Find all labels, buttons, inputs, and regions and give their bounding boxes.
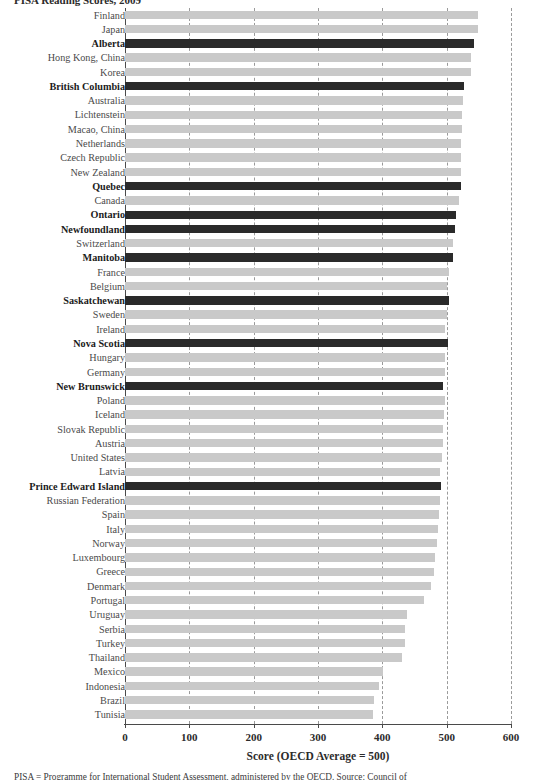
bar-row[interactable]: Luxembourg <box>0 551 535 565</box>
bar-rect[interactable] <box>125 639 405 647</box>
bar-rect[interactable] <box>125 168 461 176</box>
bar-row[interactable]: Russian Federation <box>0 494 535 508</box>
bar-rect[interactable] <box>125 182 461 190</box>
bar-row[interactable]: Finland <box>0 8 535 22</box>
bar-row[interactable]: Norway <box>0 536 535 550</box>
bar-rect[interactable] <box>125 11 478 19</box>
bar-row[interactable]: Germany <box>0 365 535 379</box>
bar-row[interactable]: Italy <box>0 522 535 536</box>
bar-rect[interactable] <box>125 625 405 633</box>
bar-row[interactable]: British Columbia <box>0 79 535 93</box>
bar-row[interactable]: New Zealand <box>0 165 535 179</box>
bar-rect[interactable] <box>125 225 455 233</box>
bar-row[interactable]: Canada <box>0 194 535 208</box>
bar-rect[interactable] <box>125 368 445 376</box>
bar-rect[interactable] <box>125 682 379 690</box>
bar-row[interactable]: Portugal <box>0 593 535 607</box>
bar-row[interactable]: Denmark <box>0 579 535 593</box>
bar-row[interactable]: United States <box>0 451 535 465</box>
bar-row[interactable]: Newfoundland <box>0 222 535 236</box>
bar-rect[interactable] <box>125 410 444 418</box>
bar-rect[interactable] <box>125 453 442 461</box>
bar-rect[interactable] <box>125 425 443 433</box>
bar-row[interactable]: Iceland <box>0 408 535 422</box>
bar-rect[interactable] <box>125 696 374 704</box>
bar-row[interactable]: Austria <box>0 436 535 450</box>
bar-rect[interactable] <box>125 211 456 219</box>
bar-row[interactable]: Japan <box>0 22 535 36</box>
bar-rect[interactable] <box>125 111 462 119</box>
bar-rect[interactable] <box>125 382 443 390</box>
bar-rect[interactable] <box>125 525 438 533</box>
bar-rect[interactable] <box>125 310 447 318</box>
bar-rect[interactable] <box>125 68 471 76</box>
bar-row[interactable]: Slovak Republic <box>0 422 535 436</box>
bar-row[interactable]: Korea <box>0 65 535 79</box>
bar-rect[interactable] <box>125 710 373 718</box>
bar-row[interactable]: Saskatchewan <box>0 294 535 308</box>
bar-rect[interactable] <box>125 468 440 476</box>
bar-row[interactable]: Netherlands <box>0 137 535 151</box>
bar-rect[interactable] <box>125 39 474 47</box>
bar-rect[interactable] <box>125 610 407 618</box>
bar-row[interactable]: Switzerland <box>0 236 535 250</box>
bar-rect[interactable] <box>125 268 449 276</box>
bar-rect[interactable] <box>125 482 441 490</box>
bar-rect[interactable] <box>125 282 447 290</box>
bar-row[interactable]: Mexico <box>0 665 535 679</box>
bar-row[interactable]: Lichtenstein <box>0 108 535 122</box>
bar-rect[interactable] <box>125 253 453 261</box>
bar-row[interactable]: Uruguay <box>0 608 535 622</box>
bar-row[interactable]: Nova Scotia <box>0 336 535 350</box>
bar-rect[interactable] <box>125 339 448 347</box>
bar-row[interactable]: Hong Kong, China <box>0 51 535 65</box>
bar-row[interactable]: Brazil <box>0 693 535 707</box>
bar-rect[interactable] <box>125 53 471 61</box>
bar-rect[interactable] <box>125 296 449 304</box>
bar-row[interactable]: Australia <box>0 94 535 108</box>
bar-row[interactable]: Poland <box>0 394 535 408</box>
bar-row[interactable]: Indonesia <box>0 679 535 693</box>
bar-rect[interactable] <box>125 325 445 333</box>
bar-row[interactable]: Turkey <box>0 636 535 650</box>
bar-rect[interactable] <box>125 396 445 404</box>
bar-row[interactable]: Ireland <box>0 322 535 336</box>
bar-rect[interactable] <box>125 82 464 90</box>
bar-row[interactable]: Latvia <box>0 465 535 479</box>
bar-rect[interactable] <box>125 125 462 133</box>
bar-row[interactable]: Thailand <box>0 651 535 665</box>
bar-row[interactable]: New Brunswick <box>0 379 535 393</box>
bar-rect[interactable] <box>125 96 463 104</box>
bar-row[interactable]: Serbia <box>0 622 535 636</box>
bar-rect[interactable] <box>125 568 434 576</box>
bar-row[interactable]: Hungary <box>0 351 535 365</box>
bar-rect[interactable] <box>125 539 437 547</box>
bar-rect[interactable] <box>125 553 435 561</box>
bar-row[interactable]: Macao, China <box>0 122 535 136</box>
bar-row[interactable]: Sweden <box>0 308 535 322</box>
bar-rect[interactable] <box>125 667 383 675</box>
bar-row[interactable]: Quebec <box>0 179 535 193</box>
bar-row[interactable]: Greece <box>0 565 535 579</box>
bar-rect[interactable] <box>125 596 424 604</box>
bar-rect[interactable] <box>125 25 478 33</box>
bar-row[interactable]: France <box>0 265 535 279</box>
bar-row[interactable]: Alberta <box>0 37 535 51</box>
bar-rect[interactable] <box>125 196 459 204</box>
bar-row[interactable]: Czech Republic <box>0 151 535 165</box>
bar-row[interactable]: Ontario <box>0 208 535 222</box>
bar-row[interactable]: Belgium <box>0 279 535 293</box>
bar-rect[interactable] <box>125 153 461 161</box>
bar-rect[interactable] <box>125 239 453 247</box>
bar-row[interactable]: Tunisia <box>0 708 535 722</box>
bar-row[interactable]: Spain <box>0 508 535 522</box>
bar-rect[interactable] <box>125 496 440 504</box>
bar-row[interactable]: Prince Edward Island <box>0 479 535 493</box>
bar-rect[interactable] <box>125 439 443 447</box>
bar-rect[interactable] <box>125 510 439 518</box>
bar-row[interactable]: Manitoba <box>0 251 535 265</box>
bar-rect[interactable] <box>125 139 461 147</box>
bar-rect[interactable] <box>125 582 431 590</box>
bar-rect[interactable] <box>125 653 402 661</box>
bar-rect[interactable] <box>125 353 445 361</box>
